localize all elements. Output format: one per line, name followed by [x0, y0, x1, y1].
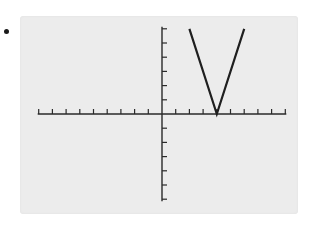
curve-line	[189, 29, 244, 114]
plot-area	[0, 0, 309, 226]
absolute-value-curve	[189, 29, 244, 114]
axes	[38, 27, 287, 201]
